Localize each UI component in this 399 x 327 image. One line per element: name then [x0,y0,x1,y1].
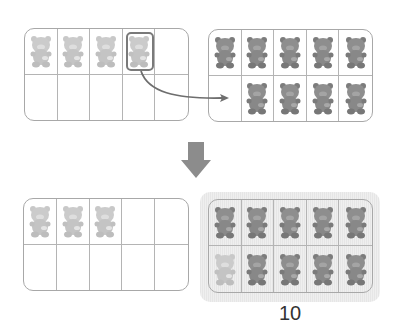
result-label: 10 [270,302,310,325]
move-arrow-curve [141,71,222,98]
down-arrow-icon [181,142,211,178]
arrows-overlay [0,0,399,327]
